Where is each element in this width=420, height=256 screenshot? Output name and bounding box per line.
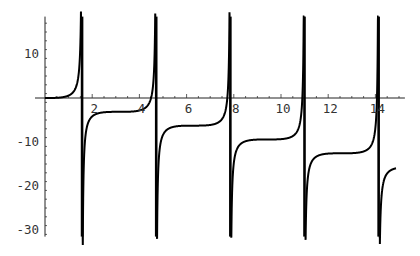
x-tick-label: 2 xyxy=(90,101,98,116)
x-tick-label: 14 xyxy=(370,101,385,116)
x-tick-label: 6 xyxy=(185,101,193,116)
curve-branch xyxy=(45,11,82,98)
curve-branch xyxy=(82,14,156,246)
curve-branch xyxy=(230,17,304,238)
curve-branch xyxy=(305,17,379,240)
x-tick-label: 8 xyxy=(232,101,240,116)
y-tick-label: -20 xyxy=(16,178,39,193)
y-tick-label: 10 xyxy=(24,46,39,61)
asymptote-lines xyxy=(82,17,379,237)
curve-branch xyxy=(379,168,396,244)
y-tick-label: -10 xyxy=(16,134,39,149)
plot-area: 246810121410-10-20-30 xyxy=(0,0,420,256)
x-tick-label: 10 xyxy=(275,101,290,116)
curve-branch xyxy=(156,12,230,239)
tick-labels: 246810121410-10-20-30 xyxy=(16,46,385,237)
x-tick-label: 12 xyxy=(323,101,338,116)
y-tick-label: -30 xyxy=(16,222,39,237)
function-curve xyxy=(45,11,396,245)
x-tick-label: 4 xyxy=(138,101,146,116)
axes xyxy=(35,17,405,237)
